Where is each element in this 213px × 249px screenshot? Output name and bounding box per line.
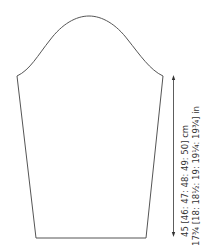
sleeve-outline (17, 16, 163, 238)
length-label-cm: 45 [46: 47: 48: 49: 50] cm (180, 125, 190, 237)
length-label-in: 17¾ [18: 18½: 19: 19¼: 19¾] in (191, 106, 201, 246)
arrow-down-icon (172, 232, 175, 237)
arrow-up-icon (172, 75, 175, 80)
length-arrow (172, 75, 175, 237)
